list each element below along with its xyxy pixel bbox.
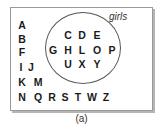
outside-letter-m: M: [34, 77, 43, 88]
outside-letter-w: W: [87, 92, 97, 103]
outside-letter-z: Z: [103, 92, 109, 103]
inside-letter-u: U: [64, 59, 72, 70]
outside-letter-f: F: [19, 47, 25, 58]
inside-letter-h: H: [64, 45, 72, 56]
inside-letter-l: L: [79, 45, 85, 56]
inside-letter-d: D: [78, 30, 86, 41]
figure-caption: (a): [0, 114, 163, 124]
inside-letter-e: E: [93, 30, 100, 41]
outside-letter-i: I: [20, 62, 23, 73]
inside-letter-o: O: [93, 45, 101, 56]
outside-letter-j: J: [28, 62, 34, 73]
outside-letter-a: A: [18, 20, 26, 31]
inside-letter-y: Y: [93, 59, 100, 70]
outside-letter-q: Q: [34, 92, 42, 103]
outside-letter-n: N: [18, 92, 26, 103]
outside-letter-t: T: [75, 92, 81, 103]
outside-letter-k: K: [18, 77, 26, 88]
inside-letter-x: X: [78, 59, 85, 70]
outside-letter-s: S: [61, 92, 68, 103]
girls-set-label: girls: [109, 12, 127, 22]
inside-letter-g: G: [49, 45, 57, 56]
outside-letter-r: R: [48, 92, 56, 103]
inside-letter-c: C: [64, 30, 72, 41]
inside-letter-p: P: [108, 45, 115, 56]
outside-letter-b: B: [18, 34, 26, 45]
